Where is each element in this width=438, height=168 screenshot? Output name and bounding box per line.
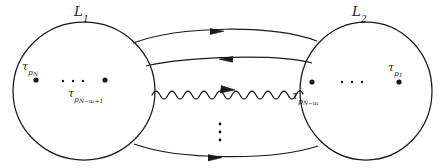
marked-point-tau-p-N-uk-plus-1: [102, 77, 107, 82]
tau-subsubscript-index: N−uₖ: [303, 100, 319, 106]
loop-label-L2-subscript: 2: [361, 13, 367, 24]
vertical-ellipsis-dot: [219, 123, 222, 126]
loop-label-L2-base: L: [352, 3, 361, 19]
connector-wavy-arrowhead: [220, 86, 235, 94]
loop-L1-ellipsis-dot: [72, 80, 74, 82]
connector-top: [133, 29, 317, 43]
connector-wavy: [152, 91, 303, 99]
tau-subsubscript-index: 1: [399, 72, 403, 78]
point-label-tau-p-N-uk-plus-1: τpN−uₖ+1: [68, 88, 103, 102]
point-label-tau-p-1: τp1: [388, 62, 403, 76]
loop-L2-ellipsis-dot: [351, 81, 353, 83]
point-label-tau-p-N: τpN: [22, 61, 38, 75]
tau-subscript-p: pN−uₖ: [298, 97, 319, 106]
loop-label-L1-base: L: [74, 3, 83, 19]
loop-label-L2: L2: [352, 5, 367, 21]
tau-subscript-p: pN−uₖ+1: [74, 95, 103, 104]
tau-subsubscript-index: N−uₖ+1: [79, 98, 103, 104]
marked-point-tau-p-N-uk: [309, 79, 314, 84]
loop-L2-ellipsis-dot: [341, 81, 343, 83]
tau-subscript-p: p1: [394, 69, 403, 78]
loop-label-L1: L1: [74, 5, 89, 21]
figure-canvas: [0, 0, 438, 168]
tau-subscript-p: pN: [28, 68, 38, 77]
marked-point-tau-p-N: [33, 77, 38, 82]
topology-figure: L1 L2 τpN τpN−uₖ+1 τpN−uₖ τp1: [0, 0, 438, 168]
vertical-ellipsis-dot: [219, 131, 222, 134]
loop-L2-outline: [300, 22, 432, 160]
loop-label-L1-subscript: 1: [83, 13, 89, 24]
tau-subsubscript-index: N: [33, 71, 38, 77]
loop-L2-ellipsis-dot: [361, 81, 363, 83]
loop-L1-ellipsis-dot: [82, 80, 84, 82]
connector-bottom: [134, 144, 318, 157]
vertical-ellipsis-dot: [219, 139, 222, 142]
marked-point-tau-p-1: [396, 79, 401, 84]
loop-L1-ellipsis-dot: [62, 80, 64, 82]
connector-bottom-arrowhead: [208, 155, 222, 161]
point-label-tau-p-N-uk: τpN−uₖ: [292, 90, 319, 104]
